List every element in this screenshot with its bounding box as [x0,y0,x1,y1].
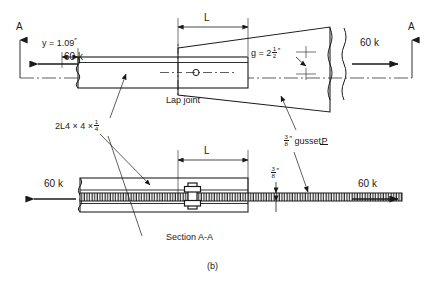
gage-unit: ″ [278,47,280,54]
angles-times-2: × [88,121,93,131]
dimension-label-gage: g = 212″ [251,46,280,60]
plate-symbol: P [321,137,328,146]
load-label-bottom-right: 60 k [358,179,377,189]
lap-joint-label: Lap joint [166,96,200,105]
load-label-top-left: 60 k [64,52,83,62]
gusset-word: gusset [294,136,321,146]
section-gusset-plate [80,193,402,201]
dimension-label-plate-thickness: 38″ [270,166,279,180]
angles-thickness-fraction: 14 [94,119,99,133]
figure-caption: (b) [207,262,218,271]
section-mark-label-left: A [16,22,23,32]
dimension-label-eccentricity: y = 1.09″ [42,37,77,48]
load-label-top-right: 60 k [360,38,379,48]
dimension-label-L-top: L [204,13,210,23]
gusset-unit: ″ [289,135,291,142]
angles-leg: 4 [80,121,85,131]
section-title-label: Section A-A [166,233,213,242]
angles-prefix: 2L4 [55,121,70,131]
eccentricity-unit: ″ [74,37,76,44]
section-mark-label-right: A [408,22,415,32]
angles-callout-label: 2L4 × 4 ×14 [55,119,100,133]
gusset-callout-label: 38″ gussetP [283,134,328,148]
plate-thickness-unit: ″ [276,167,278,174]
gage-fraction: 12 [272,46,277,60]
load-label-bottom-left: 60 k [44,179,63,189]
angles-times-1: × [73,121,78,131]
gage-prefix: g = 2 [251,48,271,58]
eccentricity-text: y = 1.09 [42,38,74,48]
dimension-label-L-bottom: L [204,146,210,156]
